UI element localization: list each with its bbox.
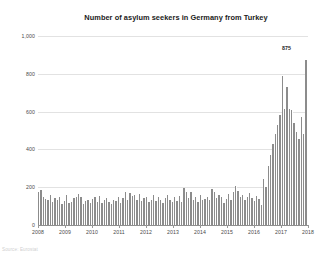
x-axis-tickmark <box>146 225 147 228</box>
chart-figure: Number of asylum seekers in Germany from… <box>0 0 327 263</box>
x-axis-labels: 2008200920102011201220132014201520162017… <box>38 229 308 239</box>
x-axis-tick-label: 2018 <box>302 229 314 235</box>
y-axis-tick-label: 800 <box>9 71 35 77</box>
x-axis-tick-label: 2010 <box>86 229 98 235</box>
x-axis-tickmark <box>281 225 282 228</box>
x-axis-tickmark <box>38 225 39 228</box>
y-axis-tick-label: 0 <box>9 222 35 228</box>
x-axis-tick-label: 2011 <box>113 229 125 235</box>
x-axis-tickmark <box>65 225 66 228</box>
x-axis-tickmark <box>308 225 309 228</box>
x-axis-tick-label: 2014 <box>194 229 206 235</box>
x-axis-tickmark <box>227 225 228 228</box>
y-axis-tick-label: 1,000 <box>9 33 35 39</box>
chart-title: Number of asylum seekers in Germany from… <box>36 13 316 22</box>
x-axis-tick-label: 2016 <box>248 229 260 235</box>
x-axis-tick-label: 2013 <box>167 229 179 235</box>
x-axis-tickmark <box>119 225 120 228</box>
y-axis-tick-label: 600 <box>9 109 35 115</box>
x-axis-tickmark <box>173 225 174 228</box>
x-axis-tick-label: 2008 <box>32 229 44 235</box>
bar-series <box>38 36 308 225</box>
x-axis-tickmark <box>254 225 255 228</box>
x-axis-tick-label: 2017 <box>275 229 287 235</box>
y-axis-tick-label: 400 <box>9 146 35 152</box>
plot-area <box>38 34 308 225</box>
y-axis-tick-label: 200 <box>9 184 35 190</box>
x-axis-tick-label: 2015 <box>221 229 233 235</box>
peak-value-label: 875 <box>282 45 291 51</box>
source-note: Source: Eurostat <box>2 247 38 252</box>
x-axis-tick-label: 2012 <box>140 229 152 235</box>
bar <box>305 60 307 225</box>
x-axis-tickmark <box>200 225 201 228</box>
x-axis-tick-label: 2009 <box>59 229 71 235</box>
x-axis-tickmark <box>92 225 93 228</box>
